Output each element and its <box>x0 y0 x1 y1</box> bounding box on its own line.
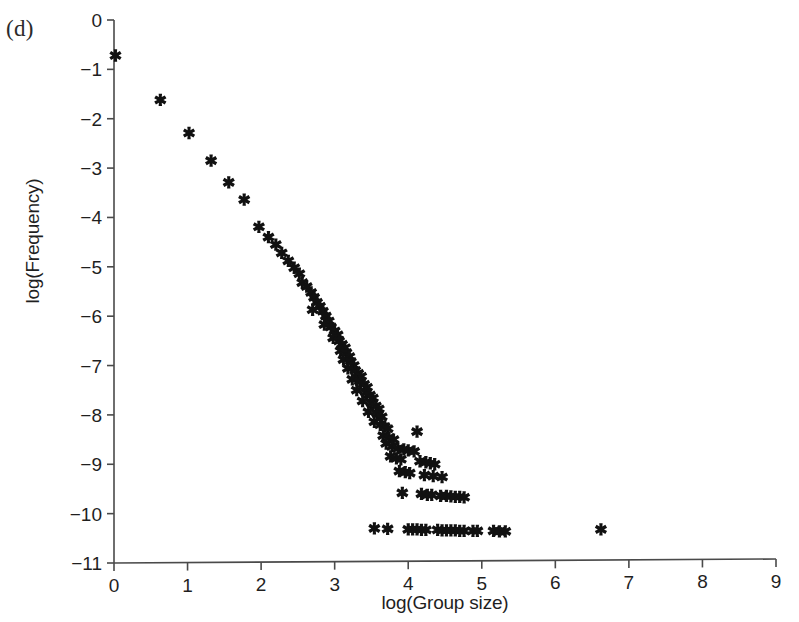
x-tick-label: 7 <box>624 572 635 593</box>
x-axis-title: log(Group size) <box>114 592 776 614</box>
data-point <box>396 487 408 499</box>
data-point <box>368 522 380 534</box>
y-tick-label: −6 <box>80 306 102 327</box>
x-tick-label: 6 <box>550 572 561 593</box>
data-point <box>411 426 423 438</box>
y-tick-label: −4 <box>80 207 102 228</box>
y-tick-label: −3 <box>80 158 102 179</box>
y-tick-label: −9 <box>80 454 102 475</box>
x-tick-label: 5 <box>476 573 487 594</box>
data-point <box>223 176 235 188</box>
x-tick-label: 9 <box>771 571 782 592</box>
y-tick-label: −7 <box>80 356 102 377</box>
data-point <box>205 154 217 166</box>
data-point <box>382 523 394 535</box>
scatter-plot-figure: (d) 0−1−2−3−4−5−6−7−8−9−10−110123456789 … <box>0 0 799 622</box>
data-point <box>253 221 265 233</box>
data-point <box>109 49 121 61</box>
y-tick-label: −10 <box>70 504 102 525</box>
plot-canvas: 0−1−2−3−4−5−6−7−8−9−10−110123456789 <box>0 0 799 622</box>
y-tick-label: −8 <box>80 405 102 426</box>
y-axis-title: log(Frequency) <box>22 161 44 321</box>
y-tick-label: −11 <box>71 553 102 574</box>
data-points-group <box>109 49 607 537</box>
y-tick-label: 0 <box>91 10 102 31</box>
data-point <box>238 193 250 205</box>
data-point <box>183 127 195 139</box>
y-tick-label: −5 <box>80 257 102 278</box>
x-tick-label: 8 <box>697 571 708 592</box>
y-tick-label: −1 <box>80 59 102 80</box>
axes-group: 0−1−2−3−4−5−6−7−8−9−10−110123456789 <box>70 10 782 596</box>
data-point <box>154 94 166 106</box>
data-point <box>595 523 607 535</box>
y-tick-label: −2 <box>80 109 102 130</box>
data-point <box>270 238 282 250</box>
data-point <box>276 247 288 259</box>
